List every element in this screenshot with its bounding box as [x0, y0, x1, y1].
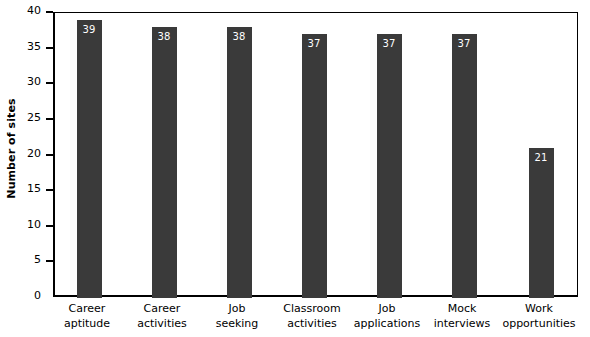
x-axis-label-line: activities [125, 316, 200, 331]
x-axis-label-line: opportunities [502, 316, 577, 331]
y-axis-title: Number of sites [0, 0, 22, 297]
bar-value-label: 37 [452, 38, 477, 49]
bar-value-label: 38 [152, 31, 177, 42]
x-axis-label-line: activities [275, 316, 350, 331]
y-axis-title-text: Number of sites [5, 98, 18, 198]
y-axis-tick-label: 15 [27, 182, 41, 196]
bar-value-label: 21 [529, 152, 554, 163]
x-axis-label-line: Career [125, 301, 200, 316]
y-axis-tick-mark [46, 47, 53, 49]
bar: 38 [152, 27, 177, 298]
bar-chart: Number of sites 0510152025303540 3938383… [0, 0, 590, 337]
bar: 21 [529, 148, 554, 298]
x-axis-label-line: aptitude [50, 316, 125, 331]
x-axis-label-line: Classroom [275, 301, 350, 316]
y-axis-tick-label: 5 [34, 253, 41, 267]
bar: 37 [302, 34, 327, 298]
y-axis-tick-mark [46, 118, 53, 120]
y-axis-tick-label: 10 [27, 218, 41, 232]
y-axis-tick-label: 40 [27, 4, 41, 18]
x-axis-label-line: Career [50, 301, 125, 316]
x-axis-label: Jobapplications [350, 301, 425, 331]
y-axis-tick-label: 30 [27, 75, 41, 89]
y-axis-tick-mark [46, 11, 53, 13]
x-axis-label-line: Job [350, 301, 425, 316]
bar: 38 [227, 27, 252, 298]
y-axis-tick-label: 25 [27, 111, 41, 125]
x-axis-label-line: interviews [425, 316, 500, 331]
x-axis-label: Workopportunities [502, 301, 577, 331]
bar: 39 [77, 20, 102, 298]
bar-value-label: 39 [77, 24, 102, 35]
y-axis-tick-label: 0 [34, 289, 41, 303]
y-axis-tick-label: 35 [27, 40, 41, 54]
bar-value-label: 37 [377, 38, 402, 49]
x-axis-label: Careeraptitude [50, 301, 125, 331]
bar: 37 [452, 34, 477, 298]
x-axis-label: Mockinterviews [425, 301, 500, 331]
x-axis-label: Classroomactivities [275, 301, 350, 331]
y-axis-tick-mark [46, 154, 53, 156]
y-axis-tick-label: 20 [27, 147, 41, 161]
bar-value-label: 37 [302, 38, 327, 49]
x-axis-label-line: seeking [200, 316, 275, 331]
x-axis-label-line: Work [502, 301, 577, 316]
y-axis-tick-mark [46, 260, 53, 262]
plot-area: 39383837373721 [53, 12, 578, 297]
bar-value-label: 38 [227, 31, 252, 42]
bar: 37 [377, 34, 402, 298]
x-axis-label-line: Job [200, 301, 275, 316]
x-axis-label: Careeractivities [125, 301, 200, 331]
x-axis-label-line: applications [350, 316, 425, 331]
y-axis-tick-mark [46, 225, 53, 227]
y-axis-tick-mark [46, 189, 53, 191]
x-axis-label-line: Mock [425, 301, 500, 316]
x-axis-label: Jobseeking [200, 301, 275, 331]
y-axis-tick-mark [46, 82, 53, 84]
